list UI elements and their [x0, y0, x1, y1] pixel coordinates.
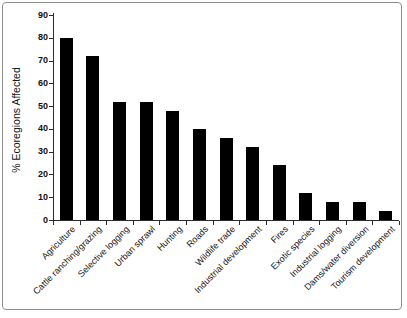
bar-industrial-development	[246, 147, 259, 220]
x-axis-tick	[346, 221, 347, 225]
bar-selective-logging	[113, 102, 126, 220]
x-axis-tick	[186, 221, 187, 225]
y-axis-line	[53, 13, 54, 220]
x-axis-category-label: Hunting	[155, 224, 184, 253]
bar-fires	[273, 165, 286, 220]
y-axis-tick	[49, 129, 53, 130]
bar-wildlife-trade	[220, 138, 233, 220]
x-axis-line	[53, 220, 399, 221]
y-axis-tick-label: 0	[18, 215, 48, 226]
x-axis-tick	[159, 221, 160, 225]
y-axis-tick-label: 60	[18, 78, 48, 89]
y-axis-tick	[49, 61, 53, 62]
y-axis-tick-label: 70	[18, 55, 48, 66]
x-axis-tick	[399, 221, 400, 225]
bar-hunting	[166, 111, 179, 220]
bar-chart: % Ecoregions Affected 010203040506070809…	[0, 0, 407, 318]
x-axis-tick	[106, 221, 107, 225]
y-axis-tick	[49, 15, 53, 16]
y-axis-tick-label: 90	[18, 10, 48, 21]
y-axis-tick-label: 30	[18, 146, 48, 157]
bar-cattle-ranching-grazing	[86, 56, 99, 220]
x-axis-tick	[266, 221, 267, 225]
y-axis-tick	[49, 38, 53, 39]
y-axis-tick	[49, 197, 53, 198]
y-axis-tick	[49, 106, 53, 107]
bar-dams-water-diversion	[353, 202, 366, 220]
bar-urban-sprawl	[140, 102, 153, 220]
x-axis-tick	[319, 221, 320, 225]
x-axis-tick	[213, 221, 214, 225]
x-axis-tick	[239, 221, 240, 225]
x-axis-category-label: Fires	[269, 224, 290, 245]
y-axis-tick	[49, 83, 53, 84]
x-axis-tick	[293, 221, 294, 225]
x-axis-tick	[133, 221, 134, 225]
y-axis-tick-label: 20	[18, 169, 48, 180]
y-axis-tick-label: 10	[18, 192, 48, 203]
y-axis-tick	[49, 152, 53, 153]
bar-industrial-logging	[326, 202, 339, 220]
bar-tourism-development	[379, 211, 392, 220]
y-axis-tick-label: 50	[18, 101, 48, 112]
x-axis-tick	[53, 221, 54, 225]
y-axis-tick	[49, 174, 53, 175]
bar-agriculture	[60, 38, 73, 220]
x-axis-tick	[372, 221, 373, 225]
y-axis-tick-label: 40	[18, 123, 48, 134]
bar-exotic-species	[299, 193, 312, 220]
bar-roads	[193, 129, 206, 220]
x-axis-tick	[80, 221, 81, 225]
y-axis-tick-label: 80	[18, 32, 48, 43]
